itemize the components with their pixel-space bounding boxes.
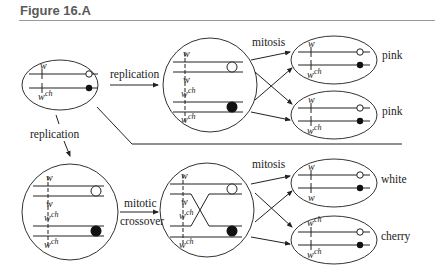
allele-label: w [40,60,47,71]
allele-label: w [181,170,188,181]
allele-label: w [307,125,314,136]
allele-label-sup: ch [188,112,196,121]
separator-line [97,107,402,144]
allele-label: w [307,249,314,260]
allele-label: w [181,88,188,99]
allele-label-sup: ch [51,237,59,246]
mitotic-crossover-label: crossover [120,215,164,227]
allele-label: w [44,239,51,250]
allele-label-sup: ch [314,123,322,132]
allele-label: w [307,69,314,80]
allele-label-sup: ch [45,89,53,98]
allele-label-sup: ch [188,86,196,95]
bottom-replicated-cell: w w w ch w ch [22,164,118,260]
replication-label: replication [30,128,79,141]
allele-label: w [44,212,51,223]
top-replicated-cell: w w w ch w ch [163,38,257,132]
top-daughter-cell-2: w w ch [291,91,377,139]
bottom-crossover-cell: w w w ch w ch [160,163,254,257]
replication-arrow [64,141,70,156]
top-daughter-cell-1: w w ch [291,36,377,84]
open-centromere-icon [227,62,237,72]
allele-label: w [183,74,190,85]
mitotic-crossover-diagram: w w ch replication replication w w w ch … [0,0,435,276]
allele-label: w [183,48,190,59]
phenotype-label: cherry [381,230,411,243]
phenotype-label: white [381,173,407,185]
filled-centromere-icon [227,102,238,113]
filled-centromere-icon [86,85,92,91]
allele-label: w [181,114,188,125]
allele-label: w [179,210,186,221]
allele-label: w [46,172,53,183]
allele-label-sup: ch [314,215,322,224]
allele-label: w [308,192,315,203]
open-centromere-icon [86,71,92,77]
parent-cell: w w ch [22,60,98,110]
mitosis-label: mitosis [252,158,286,170]
allele-label-sup: ch [186,237,194,246]
bottom-daughter-cell-2: w ch w ch [291,215,377,264]
allele-label: w [46,198,53,209]
replication-label: replication [110,68,159,81]
phenotype-label: pink [382,49,403,62]
allele-label: w [179,239,186,250]
mitotic-crossover-label: mitotic [124,197,157,209]
allele-label-sup: ch [186,208,194,217]
bottom-daughter-cell-1: w w [291,159,377,207]
allele-label: w [38,91,45,102]
allele-label: w [181,196,188,207]
allele-label: w [308,38,315,49]
mitosis-label: mitosis [252,36,286,48]
allele-label: w [307,217,314,228]
allele-label-sup: ch [314,247,322,256]
allele-label: w [308,161,315,172]
allele-label: w [308,94,315,105]
allele-label-sup: ch [314,67,322,76]
phenotype-label: pink [382,105,403,118]
allele-label-sup: ch [51,210,59,219]
